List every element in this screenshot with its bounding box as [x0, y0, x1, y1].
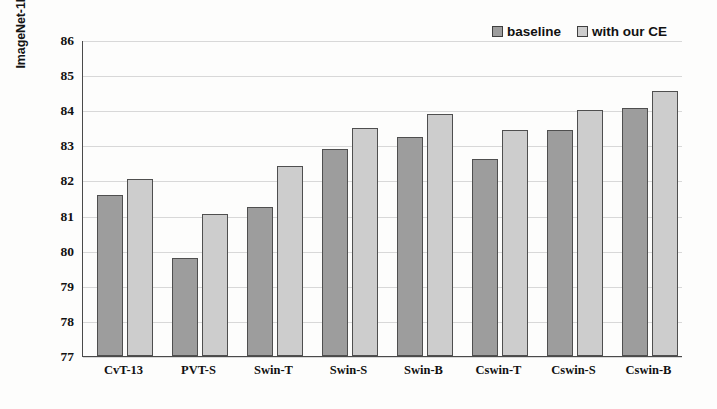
bar-group-cswin-b [622, 41, 678, 356]
bar-group-cswin-t [472, 41, 528, 356]
bar-swin-b-baseline[interactable] [397, 137, 423, 356]
bar-pvt-s-baseline[interactable] [172, 258, 198, 356]
bar-cvt-13-baseline[interactable] [97, 195, 123, 357]
y-axis-tick-86: 86 [42, 33, 74, 49]
bar-swin-b-with-our-ce[interactable] [427, 114, 453, 356]
bar-group-swin-s [322, 41, 378, 356]
bar-group-pvt-s [172, 41, 228, 356]
y-axis-title: ImageNet-1K Top-1 accuracy(%) [14, 0, 34, 100]
bar-cvt-13-with-our-ce[interactable] [127, 179, 153, 356]
legend-label-with-our-ce: with our CE [592, 24, 667, 39]
bar-cswin-s-baseline[interactable] [547, 130, 573, 356]
bar-cswin-t-with-our-ce[interactable] [502, 130, 528, 356]
x-axis-label-cswin-b: Cswin-B [604, 363, 694, 378]
chart-legend: baseline with our CE [492, 24, 667, 39]
baseline-swatch-icon [492, 26, 503, 37]
y-axis-tick-81: 81 [42, 209, 74, 225]
bar-chart: ImageNet-1K Top-1 accuracy(%) baseline w… [0, 0, 717, 409]
bar-cswin-t-baseline[interactable] [472, 159, 498, 356]
legend-item-baseline[interactable]: baseline [492, 24, 561, 39]
y-axis-tick-77: 77 [42, 349, 74, 365]
plot-area [82, 41, 682, 357]
bar-group-swin-t [247, 41, 303, 356]
bar-pvt-s-with-our-ce[interactable] [202, 214, 228, 356]
bar-group-swin-b [397, 41, 453, 356]
bar-group-cvt-13 [97, 41, 153, 356]
bar-group-cswin-s [547, 41, 603, 356]
y-axis-tick-79: 79 [42, 279, 74, 295]
y-axis-tick-82: 82 [42, 173, 74, 189]
y-axis-tick-83: 83 [42, 138, 74, 154]
legend-item-with-our-ce[interactable]: with our CE [577, 24, 667, 39]
y-axis-tick-80: 80 [42, 244, 74, 260]
bar-cswin-s-with-our-ce[interactable] [577, 110, 603, 356]
bar-swin-t-with-our-ce[interactable] [277, 166, 303, 356]
legend-label-baseline: baseline [507, 24, 561, 39]
bar-swin-s-with-our-ce[interactable] [352, 128, 378, 356]
bar-cswin-b-baseline[interactable] [622, 108, 648, 356]
y-axis-tick-84: 84 [42, 103, 74, 119]
y-axis-tick-85: 85 [42, 68, 74, 84]
bar-swin-s-baseline[interactable] [322, 149, 348, 356]
with-our-ce-swatch-icon [577, 26, 588, 37]
gridline [83, 357, 682, 358]
bar-swin-t-baseline[interactable] [247, 207, 273, 356]
bar-cswin-b-with-our-ce[interactable] [652, 91, 678, 356]
y-axis-tick-78: 78 [42, 314, 74, 330]
